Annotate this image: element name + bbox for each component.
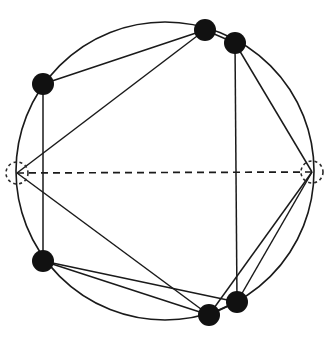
node-n4[interactable]	[226, 291, 248, 313]
edge-n6-n4	[43, 261, 237, 302]
node-n2[interactable]	[224, 32, 246, 54]
figure-caption	[0, 334, 332, 346]
figure-root	[0, 0, 332, 346]
node-n1[interactable]	[194, 19, 216, 41]
layout-circle	[16, 22, 314, 320]
edge-n7-n5	[17, 173, 209, 315]
edge-n3-n5	[209, 172, 312, 315]
edge-n1-n7	[17, 30, 205, 173]
layout-circle-group	[16, 22, 314, 320]
graph-diagram	[0, 0, 332, 346]
node-n8[interactable]	[32, 73, 54, 95]
node-n6[interactable]	[32, 250, 54, 272]
edge-n5-n6	[43, 261, 209, 315]
edge-n7-n3-dashed-diameter	[17, 172, 312, 173]
node-n5[interactable]	[198, 304, 220, 326]
edge-n8-n1	[43, 30, 205, 84]
edges-group	[17, 30, 312, 315]
edge-n3-n4	[237, 172, 312, 302]
